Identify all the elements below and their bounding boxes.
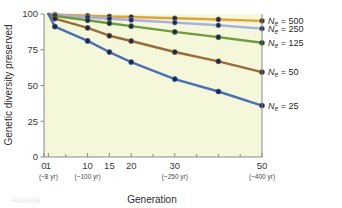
data-point-marker (52, 16, 57, 21)
data-point-marker (129, 59, 134, 64)
x-tick-sublabel: (~8 yr) (39, 173, 58, 181)
x-tick-label: 15 (104, 160, 115, 171)
data-point-marker (172, 20, 177, 25)
data-point-marker (216, 35, 221, 40)
data-point-marker (85, 38, 90, 43)
y-tick-label: 0 (33, 151, 38, 162)
legend-label-1: Ne = 250 (268, 24, 303, 35)
x-tick-label: 10 (82, 160, 93, 171)
figure-caption-ghost: FIGURE (12, 197, 41, 204)
x-tick-label: 30 (170, 160, 181, 171)
data-point-marker (216, 59, 221, 64)
data-point-marker (216, 89, 221, 94)
data-point-marker (107, 33, 112, 38)
y-tick-label: 75 (27, 44, 38, 55)
data-point-marker (52, 24, 57, 29)
data-point-marker (85, 25, 90, 30)
legend-label-2: Ne = 125 (268, 38, 303, 49)
x-axis-title: Generation (127, 194, 176, 205)
y-tick-label: 100 (22, 8, 38, 19)
x-tick-sublabel: (~100 yr) (74, 173, 100, 181)
x-tick-sublabel: (~400 yr) (249, 173, 275, 181)
data-point-marker (129, 38, 134, 43)
x-tick-label: 20 (126, 160, 137, 171)
data-point-marker (129, 24, 134, 29)
data-point-marker (85, 18, 90, 23)
x-tick-label: 50 (257, 160, 268, 171)
y-tick-label: 25 (27, 116, 38, 127)
x-tick-label: 1 (46, 160, 51, 171)
x-tick-sublabel: (~250 yr) (162, 173, 188, 181)
data-point-marker (107, 21, 112, 26)
legend-label-3: Ne = 50 (268, 67, 298, 78)
data-point-marker (172, 29, 177, 34)
figure-root: 0255075100 01(~8 yr)10(~100 yr)152030(~2… (0, 0, 342, 208)
data-point-marker (107, 49, 112, 54)
data-point-marker (129, 17, 134, 22)
data-point-marker (172, 49, 177, 54)
data-point-marker (172, 76, 177, 81)
y-axis-title: Genetic diversity preserved (3, 24, 14, 145)
data-point-marker (216, 17, 221, 22)
legend-label-4: Ne = 25 (268, 101, 298, 112)
data-point-marker (216, 23, 221, 28)
genetic-diversity-line-chart: 0255075100 01(~8 yr)10(~100 yr)152030(~2… (0, 0, 342, 208)
y-tick-label: 50 (27, 80, 38, 91)
